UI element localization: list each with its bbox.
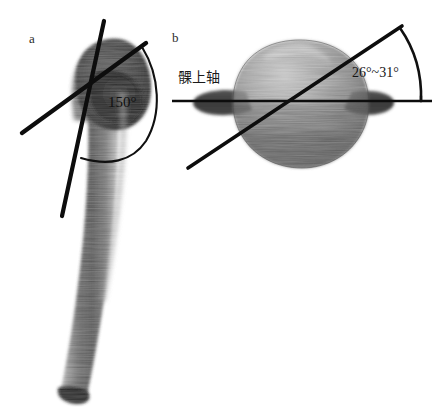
panel-a-bone [58,38,151,404]
figure-container: a b 150° 髁上轴 26°~31° [0,0,448,414]
panel-label-b: b [172,31,179,44]
anatomy-illustration [0,0,448,414]
angle-arc-b [400,28,421,101]
angle-label-b: 26°~31° [352,66,399,80]
epicondylar-axis-label-b: 髁上轴 [178,70,220,84]
panel-label-a: a [29,32,35,45]
panel-b-bone [193,40,394,178]
angle-label-a: 150° [108,95,137,110]
